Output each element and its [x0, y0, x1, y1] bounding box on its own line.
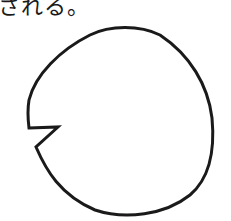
circle-outline: [28, 28, 213, 216]
notched-circle-figure: [0, 0, 231, 221]
